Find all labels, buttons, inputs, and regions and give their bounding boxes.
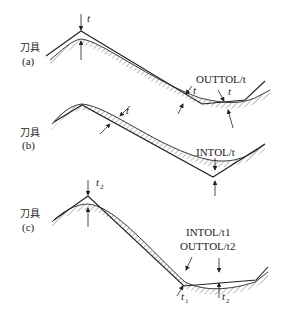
tool-label-a: 刀具: [20, 42, 40, 53]
panel-label-b: (b): [22, 139, 35, 152]
tool-label-c: 刀具: [20, 208, 40, 219]
tool-label-b: 刀具: [20, 127, 40, 138]
panel-label-a: (a): [22, 55, 35, 68]
panel-label-c: (c): [22, 221, 35, 234]
part-surface-c: [52, 204, 268, 289]
svg-text:1: 1: [185, 297, 189, 305]
outtol-label-a: OUTTOL/t: [196, 73, 246, 85]
svg-text:2: 2: [100, 183, 104, 191]
panel-b: t INTOL/t 刀具 (b): [20, 104, 265, 196]
panel-c: t 2 INTOL/t1 OUTTOL/t2 t 1 t 2 刀具 (c): [20, 176, 268, 305]
part-surface-a: [50, 39, 270, 103]
tolerance-diagram: t OUTTOL/t t t 刀具 (a) t INTOL/t 刀具 (b): [0, 0, 281, 312]
intol-label-c: INTOL/t1: [186, 226, 230, 238]
outtol-label-c: OUTTOL/t2: [180, 240, 235, 252]
svg-text:2: 2: [226, 297, 230, 305]
dim-t-a-right: t: [228, 85, 232, 97]
panel-a: t OUTTOL/t t t 刀具 (a): [20, 12, 270, 128]
intol-label-b: INTOL/t: [196, 146, 235, 158]
dim-t-a-peak: t: [87, 12, 91, 24]
dim-t-b: t: [126, 104, 130, 116]
dim-t-a-left: t: [193, 84, 197, 96]
